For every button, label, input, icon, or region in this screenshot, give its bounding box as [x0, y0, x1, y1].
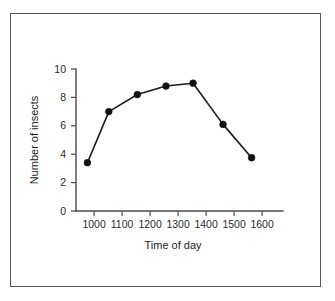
x-tick-label-1100: 1100 — [111, 218, 134, 230]
series-markers — [84, 80, 255, 166]
data-point — [84, 159, 91, 166]
x-tick-label-1200: 1200 — [138, 218, 162, 230]
x-tick-label-1400: 1400 — [194, 218, 218, 230]
data-point — [220, 121, 227, 128]
x-tick-label-1500: 1500 — [222, 218, 246, 230]
y-axis-title: Number of insects — [28, 95, 40, 184]
data-point — [163, 83, 170, 90]
data-point — [105, 108, 112, 115]
y-axis-tick-labels: 0 2 4 6 8 10 — [54, 63, 66, 217]
x-axis-title: Time of day — [144, 239, 202, 251]
plot-area: 0 2 4 6 8 10 1000 1100 1200 — [11, 14, 322, 288]
y-tick-label-10: 10 — [54, 63, 66, 75]
y-tick-label-6: 6 — [60, 119, 66, 131]
data-point — [248, 154, 255, 161]
y-tick-label-4: 4 — [60, 148, 66, 160]
figure-frame: 0 2 4 6 8 10 1000 1100 1200 — [10, 13, 321, 287]
y-tick-label-0: 0 — [60, 205, 66, 217]
data-point — [190, 80, 197, 87]
y-tick-label-8: 8 — [60, 91, 66, 103]
x-tick-label-1300: 1300 — [166, 218, 190, 230]
data-point — [134, 91, 141, 98]
series-line — [87, 83, 251, 163]
x-tick-label-1600: 1600 — [250, 218, 274, 230]
y-axis-ticks — [71, 69, 76, 211]
x-tick-label-1000: 1000 — [82, 218, 106, 230]
line-chart: 0 2 4 6 8 10 1000 1100 1200 — [1, 1, 335, 301]
x-axis-tick-labels: 1000 1100 1200 1300 1400 1500 1600 — [82, 218, 274, 230]
y-tick-label-2: 2 — [60, 176, 66, 188]
series-number-of-insects — [84, 80, 255, 166]
x-axis-ticks — [94, 211, 262, 216]
